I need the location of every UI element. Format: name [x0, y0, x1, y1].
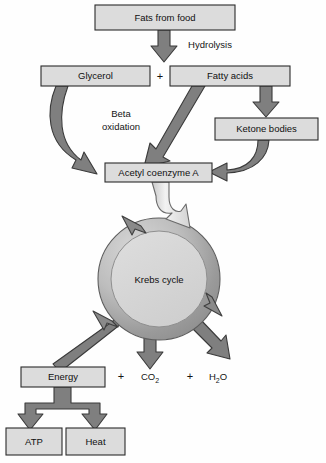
node-heat[interactable]: Heat	[66, 428, 125, 455]
node-energy-label: Energy	[48, 371, 78, 382]
arrow-ketone-to-acetyl	[209, 140, 269, 181]
node-acetyl-coa[interactable]: Acetyl coenzyme A	[105, 163, 212, 182]
arrow-energy-fork-atp-heat	[18, 387, 107, 430]
node-fatty-acids[interactable]: Fatty acids	[170, 66, 290, 86]
node-energy[interactable]: Energy	[21, 367, 105, 387]
krebs-cycle-label: Krebs cycle	[134, 274, 183, 285]
node-fatty-acids-label: Fatty acids	[207, 70, 253, 81]
arrow-fats-to-split	[151, 30, 177, 62]
node-atp[interactable]: ATP	[6, 428, 62, 455]
node-fats-label: Fats from food	[134, 12, 195, 23]
label-beta-oxidation: oxidation	[102, 121, 140, 132]
arrow-fattyacids-to-ketone	[253, 86, 279, 117]
plus-co2: +	[118, 370, 124, 382]
product-co2: CO2	[141, 371, 159, 384]
node-acetyl-coa-label: Acetyl coenzyme A	[118, 167, 199, 178]
label-beta: Beta	[111, 108, 131, 119]
arrow-fattyacids-to-acetyl	[144, 86, 205, 167]
product-h2o: H2O	[209, 371, 227, 384]
node-atp-label: ATP	[25, 436, 43, 447]
arrow-glycerol-to-acetyl	[50, 86, 97, 174]
node-fats[interactable]: Fats from food	[95, 5, 235, 30]
metabolism-diagram: Krebs cycle Fats from food Glycerol Fatt…	[0, 0, 326, 463]
node-ketone-bodies[interactable]: Ketone bodies	[215, 118, 318, 140]
node-ketone-bodies-label: Ketone bodies	[236, 123, 297, 134]
plus-h2o: +	[187, 370, 193, 382]
label-hydrolysis: Hydrolysis	[188, 39, 232, 50]
plus-split: +	[157, 70, 163, 82]
node-glycerol[interactable]: Glycerol	[41, 66, 150, 86]
node-glycerol-label: Glycerol	[78, 70, 113, 81]
node-heat-label: Heat	[85, 436, 105, 447]
